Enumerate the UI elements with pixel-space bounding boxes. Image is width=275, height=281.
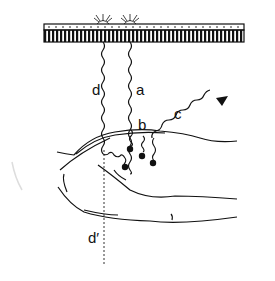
scintillation-burst-left-icon [94,14,112,24]
label-d: d [92,81,100,98]
ray-d-scatter [103,152,126,164]
track-3 [153,138,156,161]
label-b: b [138,116,146,133]
label-d-prime: d′ [88,229,99,246]
label-a: a [136,81,145,98]
arrowhead-icon [216,96,228,106]
body-outline [57,130,237,223]
faint-outline [12,162,22,190]
track-2 [142,136,145,152]
scintillation-burst-right-icon [121,14,139,24]
source-dots [122,146,156,170]
label-c: c [174,105,182,122]
diagram-canvas: d a b c d′ [0,0,275,281]
source-dot-4 [122,164,128,170]
detector-bar [44,24,244,42]
ray-a [129,42,132,174]
source-dot-3 [150,160,156,166]
source-dot-2 [139,153,145,159]
source-dot-1 [127,146,133,152]
